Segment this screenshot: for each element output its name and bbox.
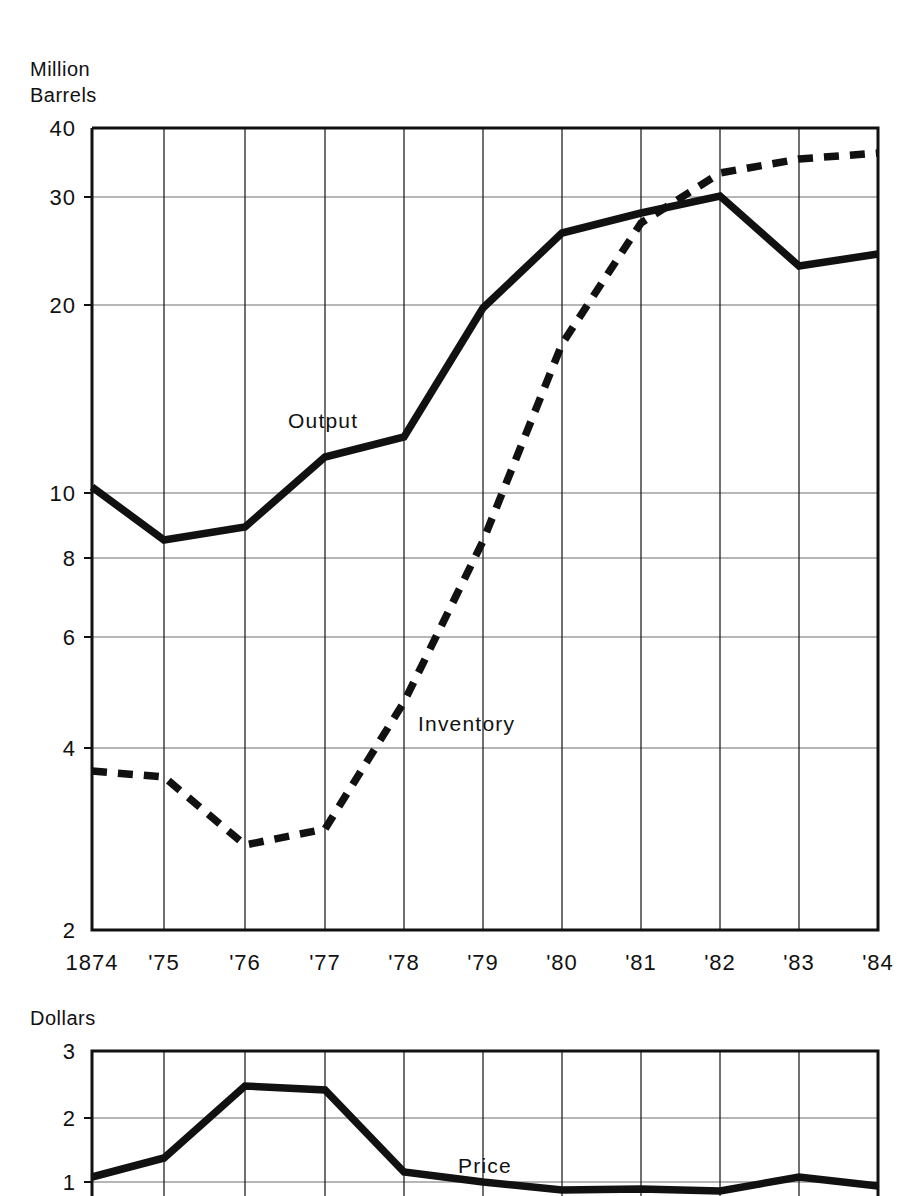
quantity-xtick-81: '81 — [625, 950, 657, 975]
quantity-xtick-79: '79 — [467, 950, 499, 975]
quantity-xtick-78: '78 — [388, 950, 420, 975]
quantity-xtick-83: '83 — [783, 950, 815, 975]
quantity-xtick-84: '84 — [862, 950, 894, 975]
price-ytick-2: 2 — [63, 1106, 76, 1131]
price-ytick-1: 1 — [63, 1170, 76, 1195]
quantity-ytick-20: 20 — [50, 293, 76, 318]
quantity-xtick-82: '82 — [704, 950, 736, 975]
series-label-output: Output — [288, 409, 358, 432]
series-label-inventory: Inventory — [418, 712, 515, 735]
series-label-price: Price — [458, 1154, 512, 1177]
quantity-horizontal-gridlines — [92, 197, 878, 748]
quantity-axis-title-line1: Million — [30, 58, 90, 80]
quantity-ytick-8: 8 — [63, 546, 76, 571]
quantity-vertical-gridlines — [164, 128, 799, 930]
quantity-xtick-77: '77 — [309, 950, 341, 975]
price-ytick-3: 3 — [63, 1039, 76, 1064]
quantity-xtick-76: '76 — [229, 950, 261, 975]
quantity-ytick-40: 40 — [50, 116, 76, 141]
price-axis-title: Dollars — [30, 1007, 96, 1029]
price-panel: Dollars — [30, 1007, 878, 1196]
quantity-ytick-10: 10 — [50, 481, 76, 506]
quantity-panel: Million Barrels — [30, 58, 894, 975]
quantity-xtick-1874: 1874 — [66, 950, 119, 975]
quantity-xtick-80: '80 — [546, 950, 578, 975]
quantity-axis-title-line2: Barrels — [30, 84, 97, 106]
quantity-xtick-75: '75 — [148, 950, 180, 975]
quantity-ytick-30: 30 — [50, 185, 76, 210]
series-inventory-line — [92, 153, 878, 845]
quantity-ytick-6: 6 — [63, 625, 76, 650]
quantity-ytick-2: 2 — [63, 918, 76, 943]
oil-statistics-figure: Million Barrels — [0, 0, 916, 1196]
series-output-line — [92, 196, 878, 540]
quantity-ytick-4: 4 — [63, 736, 76, 761]
chart-canvas: Million Barrels — [0, 0, 916, 1196]
